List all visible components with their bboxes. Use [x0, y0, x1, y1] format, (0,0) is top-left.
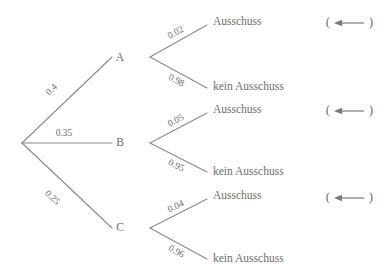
annotation-row-2: ( ) — [326, 102, 373, 117]
outcome-label-a-ausschuss: Ausschuss — [213, 15, 262, 27]
annotation-row-3: ( ) — [326, 189, 373, 204]
annotation-row-1: ( ) — [326, 14, 373, 29]
prob-label-root-a: 0.4 — [44, 82, 60, 98]
node-label-a: A — [116, 51, 125, 63]
outcome-label-b-kein-ausschuss: kein Ausschuss — [213, 165, 284, 177]
tree-canvas: A B C 0.4 0.35 0.25 0.02 0.98 Ausschuss … — [0, 0, 384, 276]
left-arrow-icon — [334, 195, 364, 201]
left-arrow-icon — [334, 108, 364, 114]
prob-label-c-kein-ausschuss: 0.96 — [167, 243, 187, 260]
node-label-c: C — [116, 221, 124, 233]
annotation-close-paren-3: ) — [369, 189, 373, 204]
node-label-b: B — [116, 136, 124, 148]
annotation-open-paren-2: ( — [326, 102, 330, 117]
prob-label-root-c: 0.25 — [43, 188, 62, 207]
annotation-open-paren-3: ( — [326, 189, 330, 204]
edge-root-to-c — [22, 143, 112, 228]
outcome-label-c-kein-ausschuss: kein Ausschuss — [213, 252, 284, 264]
prob-label-a-kein-ausschuss: 0.98 — [167, 72, 187, 89]
probability-tree-diagram: A B C 0.4 0.35 0.25 0.02 0.98 Ausschuss … — [0, 0, 384, 276]
annotation-close-paren-2: ) — [369, 102, 373, 117]
left-arrow-icon — [334, 20, 364, 26]
outcome-label-c-ausschuss: Ausschuss — [213, 189, 262, 201]
outcome-label-a-kein-ausschuss: kein Ausschuss — [213, 80, 284, 92]
prob-label-root-b: 0.35 — [56, 128, 73, 138]
annotation-open-paren-1: ( — [326, 14, 330, 29]
outcome-label-b-ausschuss: Ausschuss — [213, 103, 262, 115]
annotation-close-paren-1: ) — [369, 14, 373, 29]
